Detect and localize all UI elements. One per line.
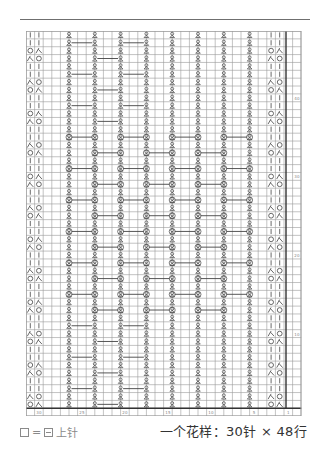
svg-text:40: 40	[294, 96, 300, 101]
svg-text:10: 10	[208, 410, 214, 415]
svg-text:10: 10	[294, 332, 300, 337]
knitting-chart: 10203040302520151051	[26, 31, 306, 416]
svg-text:15: 15	[165, 410, 171, 415]
chart-grid: 10203040302520151051	[26, 31, 306, 416]
svg-text:20: 20	[294, 253, 300, 258]
svg-text:5: 5	[253, 410, 256, 415]
svg-text:30: 30	[294, 174, 300, 179]
blank-square-icon	[20, 428, 29, 437]
legend: = 上针	[20, 424, 78, 440]
purl-square-icon	[44, 428, 53, 437]
svg-text:25: 25	[79, 410, 85, 415]
pattern-summary: 一个花样：30针 × 48行	[160, 421, 307, 440]
top-rule	[20, 19, 310, 20]
svg-text:1: 1	[287, 410, 290, 415]
legend-equals: =	[32, 426, 41, 439]
legend-label: 上针	[56, 424, 78, 440]
svg-text:30: 30	[36, 410, 42, 415]
svg-text:20: 20	[122, 410, 128, 415]
